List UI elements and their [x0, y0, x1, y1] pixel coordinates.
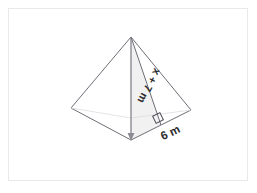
- pyramid-diagram: x + 7 m 6 m: [0, 0, 257, 193]
- edge-apex-to-left-vertex: [71, 37, 131, 108]
- base-width-label: 6 m: [159, 123, 182, 142]
